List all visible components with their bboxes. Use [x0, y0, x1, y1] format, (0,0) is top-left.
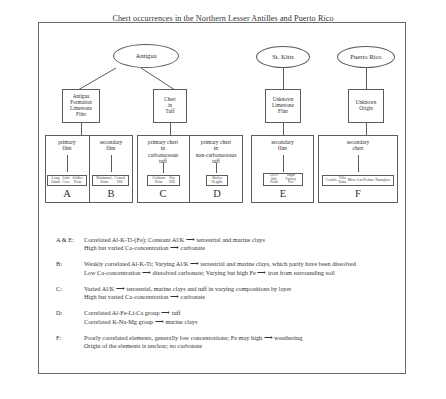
legend-key-d: D:: [56, 309, 84, 326]
legend-key-b: B:: [56, 260, 84, 277]
diagram-page: Chert occurrences in the Northern Lesser…: [0, 0, 446, 399]
formation-node-unknown-limestone: Unknown Limestone Flint: [265, 89, 301, 123]
category-letter-f: F: [343, 188, 373, 199]
category-letter-e: E: [268, 188, 298, 199]
island-label-puerto-rico: Puerto Rico: [350, 54, 381, 61]
legend-ae-line-0: Correlated Al-K-Ti-(Fe); Constant Al/K ⟶…: [84, 236, 396, 244]
legend-b-line-1: Low Ca-concentration ⟶ dissolved carbona…: [84, 269, 396, 277]
site-box-b: Blackman's Point Corned Hill: [92, 175, 129, 186]
connector-label-b-sites: [111, 155, 112, 172]
site-e-1: Sugar Factory Pier: [285, 174, 296, 185]
legend-key-f: F:: [56, 334, 84, 351]
site-a-1: Little Cove: [62, 177, 70, 185]
connector-label-e-sites: [283, 155, 284, 172]
site-box-c: Corbison Point Dry Hill: [147, 175, 180, 186]
category-label-f: secondary chert: [319, 139, 397, 152]
site-a-0: Long Island: [51, 177, 60, 185]
site-c-1: Dry Hill: [169, 177, 174, 185]
formation-label-unknown-origin: Unknown Origin: [356, 100, 376, 112]
site-a-2: Soldier Point: [73, 177, 83, 185]
formation-node-antigua-formation: Antigua Formation Limestone Flint: [62, 89, 100, 123]
legend: A & E: Correlated Al-K-Ti-(Fe); Constant…: [56, 236, 396, 358]
legend-body-f: Poorly correlated elements, generally lo…: [84, 334, 396, 351]
connector-label-c-sites: [163, 163, 164, 173]
site-c-0: Corbison Point: [152, 177, 165, 185]
site-f-0: Cerrillo: [326, 179, 337, 183]
category-label-c: primary chert in carbonaceous tuff: [138, 139, 188, 164]
formation-label-unknown-limestone: Unknown Limestone Flint: [272, 97, 294, 114]
island-node-puerto-rico: Puerto Rico: [337, 46, 395, 68]
legend-key-ae: A & E:: [56, 236, 84, 253]
legend-row-f: F: Poorly correlated elements, generally…: [56, 334, 396, 351]
site-f-3: Las Piedras: [357, 179, 373, 183]
connector-st-kitts-formation: [283, 68, 284, 89]
site-box-e: Greer Salt Pond Sugar Factory Pier: [263, 173, 303, 186]
legend-d-line-0: Correlated Al-Fe-Li-Ca group ⟶ tuff: [84, 309, 396, 317]
connector-label-a-sites: [67, 155, 68, 172]
island-label-st-kitts: St. Kitts: [272, 54, 294, 61]
legend-c-line-0: Varied Al/K ⟶ terrestrial, marine clays …: [84, 285, 396, 293]
formation-node-unknown-origin: Unknown Origin: [348, 89, 384, 123]
legend-f-line-0: Poorly correlated elements, generally lo…: [84, 334, 396, 342]
legend-ae-line-1: High but varied Ca-concentration ⟶ carbo…: [84, 244, 396, 252]
page-title: Chert occurrences in the Northern Lesser…: [0, 14, 446, 23]
legend-body-c: Varied Al/K ⟶ terrestrial, marine clays …: [84, 285, 396, 302]
category-letter-c: C: [148, 188, 178, 199]
legend-row-d: D: Correlated Al-Fe-Li-Ca group ⟶ tuff C…: [56, 309, 396, 326]
category-label-e: secondary flint: [252, 139, 313, 152]
connector-stem-e: [283, 123, 284, 135]
connector-label-f-sites: [358, 155, 359, 172]
site-f-1: Villa Taína: [338, 177, 346, 185]
island-label-antigua: Antigua: [135, 53, 156, 60]
connector-puerto-rico-formation: [366, 68, 367, 89]
legend-row-c: C: Varied Al/K ⟶ terrestrial, marine cla…: [56, 285, 396, 302]
formation-node-chert-in-tuff: Chert in Tuff: [153, 89, 187, 123]
legend-body-d: Correlated Al-Fe-Li-Ca group ⟶ tuff Corr…: [84, 309, 396, 326]
legend-d-line-1: Correlated K-Na-Mg group ⟶ marine clays: [84, 318, 396, 326]
category-letter-d: D: [202, 188, 232, 199]
category-letter-b: B: [96, 188, 126, 199]
formation-label-antigua-formation: Antigua Formation Limestone Flint: [70, 94, 92, 117]
category-letter-a: A: [52, 188, 82, 199]
legend-c-line-1: High but varied Ca-concentration ⟶ carbo…: [84, 293, 396, 301]
site-box-d: Shirley Heights: [206, 175, 228, 186]
connector-label-d-sites: [216, 163, 217, 173]
legend-body-b: Weakly correlated Al-K-Ti; Varying Al/K …: [84, 260, 396, 277]
legend-key-c: C:: [56, 285, 84, 302]
category-label-a: primary flint: [46, 139, 88, 152]
site-d-0: Shirley Heights: [212, 177, 223, 185]
connector-stem-c-d: [170, 123, 171, 135]
legend-b-line-0: Weakly correlated Al-K-Ti; Varying Al/K …: [84, 260, 396, 268]
site-e-0: Greer Salt Pond: [270, 174, 278, 185]
site-box-f: Cerrillo Villa Taína Moca Las Piedras Na…: [322, 175, 394, 186]
site-box-a: Long Island Little Cove Soldier Point: [47, 175, 87, 186]
category-label-d: primary chert in non-carbonaceous tuff: [190, 139, 242, 164]
island-node-st-kitts: St. Kitts: [256, 46, 310, 68]
site-f-2: Moca: [348, 179, 356, 183]
connector-stem-f: [366, 123, 367, 135]
legend-body-ae: Correlated Al-K-Ti-(Fe); Constant Al/K ⟶…: [84, 236, 396, 253]
legend-row-b: B: Weakly correlated Al-K-Ti; Varying Al…: [56, 260, 396, 277]
category-label-b: secondary flint: [90, 139, 132, 152]
site-b-0: Blackman's Point: [96, 177, 112, 185]
connector-stem-a-b: [81, 123, 82, 135]
legend-row-ae: A & E: Correlated Al-K-Ti-(Fe); Constant…: [56, 236, 396, 253]
legend-f-line-1: Origin of the elements is unclear; no ca…: [84, 342, 396, 350]
formation-label-chert-in-tuff: Chert in Tuff: [164, 97, 176, 114]
site-b-1: Corned Hill: [115, 177, 125, 185]
site-f-4: Naranjales: [375, 179, 390, 183]
